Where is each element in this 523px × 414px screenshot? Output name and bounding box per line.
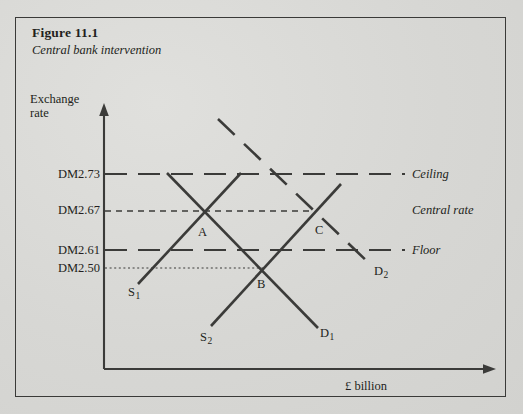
curve-label-d1-sub: 1 [329, 332, 334, 342]
curve-label-s2-base: S [200, 330, 207, 344]
point-label-b: B [257, 277, 265, 292]
curve-label-s1: S1 [128, 285, 140, 301]
curve-label-d1: D1 [320, 326, 334, 342]
side-label-central-rate: Central rate [412, 203, 473, 218]
figure-number: Figure 11.1 [32, 25, 98, 41]
side-label-ceiling: Ceiling [412, 167, 449, 182]
point-label-c: C [315, 223, 323, 238]
curve-label-s1-sub: 1 [135, 291, 140, 301]
y-axis-title-line1: Exchange [30, 92, 79, 106]
x-axis-title: £ billion [345, 379, 387, 393]
curve-label-d2-sub: 2 [383, 270, 388, 280]
figure-caption: Central bank intervention [32, 43, 161, 58]
curve-label-s2: S2 [200, 330, 212, 346]
curve-label-d2-base: D [374, 264, 383, 278]
side-label-floor: Floor [412, 243, 440, 258]
tick-label-ceiling: DM2.73 [28, 167, 100, 182]
curve-label-s2-sub: 2 [207, 336, 212, 346]
curve-label-s1-base: S [128, 285, 135, 299]
figure-page: Figure 11.1 Central bank intervention Ex… [0, 0, 523, 414]
tick-label-central-rate: DM2.67 [28, 203, 100, 218]
y-axis-title: Exchange rate [30, 92, 79, 120]
y-axis-title-line2: rate [30, 106, 79, 120]
curve-label-d2: D2 [374, 264, 388, 280]
curve-label-d1-base: D [320, 326, 329, 340]
tick-label-floor: DM2.61 [28, 243, 100, 258]
tick-label-dm250: DM2.50 [28, 261, 100, 276]
point-label-a: A [198, 225, 207, 240]
